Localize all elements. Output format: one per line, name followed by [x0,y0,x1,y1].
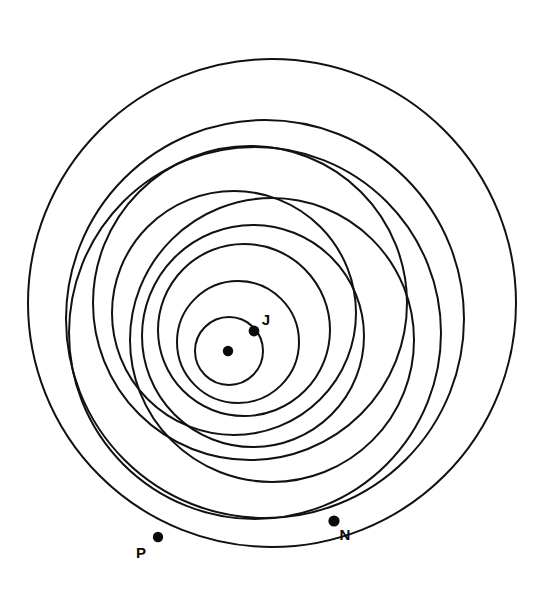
pluto-dot [153,532,163,542]
neptune-label: N [340,526,351,543]
orbit-diagram-figure: JNP [0,0,544,591]
orbit-diagram-canvas: JNP [0,0,544,591]
sun-dot [223,346,233,356]
jupiter-label: J [262,311,270,328]
pluto-label: P [136,544,146,561]
neptune-dot [328,515,339,526]
jupiter-dot [249,326,260,337]
